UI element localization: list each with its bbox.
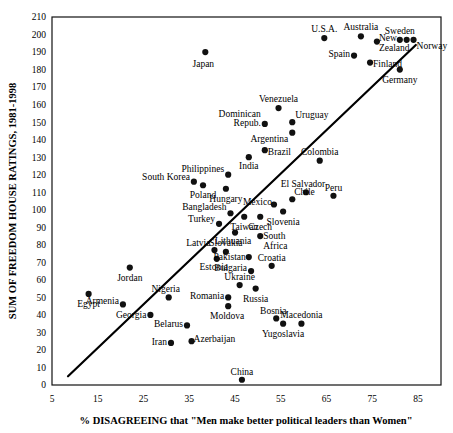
point-label: Germany: [382, 75, 418, 85]
point-label: Brazil: [268, 147, 292, 157]
y-tick-label: 10: [37, 363, 47, 373]
point-label: Argentina: [250, 134, 289, 144]
x-tick-label: 15: [93, 394, 103, 404]
y-tick-label: 90: [37, 223, 47, 233]
chart-canvas: 0102030405060708090100110120130140150160…: [0, 0, 453, 433]
data-point: [166, 294, 172, 300]
point-label: Armenia: [86, 296, 120, 306]
data-point: [225, 294, 231, 300]
point-label: Spain: [328, 49, 350, 59]
y-tick-label: 190: [32, 47, 47, 57]
data-point: [275, 105, 281, 111]
data-point: [317, 158, 323, 164]
x-tick-label: 75: [368, 394, 378, 404]
x-axis-title: % DISAGREEING that "Men make better poli…: [80, 415, 413, 426]
x-tick-label: 5: [50, 394, 55, 404]
x-tick-label: 85: [413, 394, 423, 404]
x-tick-label: 35: [185, 394, 195, 404]
point-label: Russia: [243, 294, 269, 304]
point-label: Africa: [263, 241, 288, 251]
data-point: [397, 37, 403, 43]
point-label: Chile: [294, 187, 315, 197]
y-tick-label: 70: [37, 258, 47, 268]
y-tick-label: 170: [32, 82, 47, 92]
point-label: Azerbaijan: [194, 334, 236, 344]
y-tick-label: 100: [32, 205, 47, 215]
y-axis-title: SUM OF FREEDOM HOUSE RATINGS, 1981-1998: [7, 83, 18, 319]
point-label: Peru: [325, 183, 343, 193]
y-tick-label: 140: [32, 135, 47, 145]
data-point: [237, 282, 243, 288]
point-label: Iran: [152, 337, 168, 347]
point-label: Croatia: [258, 253, 287, 263]
point-label: Uruguay: [295, 110, 328, 120]
x-axis-ticks: 51525354555657585: [50, 394, 423, 404]
point-label: Slovakia: [209, 238, 243, 248]
y-tick-label: 110: [32, 188, 46, 198]
point-label: Georgia: [116, 310, 147, 320]
point-label: Venezuela: [259, 94, 299, 104]
point-label: Romania: [190, 291, 225, 301]
y-tick-label: 160: [32, 100, 47, 110]
trend-line: [68, 45, 416, 376]
y-tick-label: 50: [37, 293, 47, 303]
y-tick-label: 180: [32, 65, 47, 75]
point-label: Latvia: [186, 238, 211, 248]
point-label: Finland: [373, 59, 402, 69]
point-label: Nigeria: [151, 284, 180, 294]
y-tick-label: 210: [32, 12, 47, 22]
point-label: China: [231, 367, 254, 377]
x-tick-label: 55: [276, 394, 286, 404]
data-point: [241, 214, 247, 220]
data-point: [269, 263, 275, 269]
point-label: Repub.: [234, 118, 261, 128]
point-label: U.S.A.: [311, 24, 337, 34]
point-label: Moldova: [210, 311, 245, 321]
point-label: Japan: [192, 59, 214, 69]
data-point: [168, 340, 174, 346]
data-point: [257, 214, 263, 220]
data-points: JapanU.S.A.AustraliaNewZealandSwedenNorw…: [77, 22, 447, 383]
data-point: [127, 264, 133, 270]
point-label: Norway: [417, 41, 448, 51]
point-label: Ukraine: [224, 272, 255, 282]
x-tick-label: 65: [322, 394, 332, 404]
point-label: Bangladesh: [182, 202, 227, 212]
data-point: [227, 210, 233, 216]
point-label: Sweden: [385, 26, 415, 36]
data-point: [298, 321, 304, 327]
y-tick-label: 30: [37, 328, 47, 338]
data-point: [404, 37, 410, 43]
point-label: Jordan: [117, 273, 143, 283]
data-point: [351, 52, 357, 58]
point-label: Colombia: [301, 147, 339, 157]
data-point: [120, 301, 126, 307]
data-point: [225, 303, 231, 309]
point-label: Belarus: [154, 319, 183, 329]
y-tick-label: 120: [32, 170, 47, 180]
data-point: [239, 377, 245, 383]
point-label: Turkey: [188, 214, 215, 224]
data-point: [397, 66, 403, 72]
data-point: [202, 49, 208, 55]
data-point: [321, 35, 327, 41]
y-tick-label: 60: [37, 275, 47, 285]
y-tick-label: 130: [32, 153, 47, 163]
y-tick-label: 200: [32, 30, 47, 40]
point-label: Australia: [343, 22, 379, 32]
data-point: [225, 172, 231, 178]
point-label: Macedonia: [280, 310, 323, 320]
scatter-chart: 0102030405060708090100110120130140150160…: [0, 0, 453, 433]
data-point: [223, 186, 229, 192]
y-axis-ticks: 0102030405060708090100110120130140150160…: [32, 12, 47, 390]
y-tick-label: 150: [32, 118, 47, 128]
y-tick-label: 20: [37, 345, 47, 355]
point-label: Yugoslavia: [262, 329, 305, 339]
y-tick-label: 40: [37, 310, 47, 320]
point-label: Mexico: [243, 197, 272, 207]
regression-line: [68, 45, 416, 376]
data-point: [200, 182, 206, 188]
data-point: [280, 321, 286, 327]
point-label: Pakistan: [214, 252, 246, 262]
data-point: [280, 208, 286, 214]
